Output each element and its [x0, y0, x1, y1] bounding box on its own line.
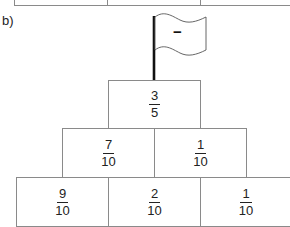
- pyramid-cell-bottom-left: 9 10: [16, 177, 109, 227]
- previous-table-divider: [200, 0, 201, 5]
- denominator: 10: [191, 154, 209, 169]
- fraction: 3 5: [149, 89, 160, 120]
- pyramid-cell-top: 3 5: [108, 80, 201, 129]
- denominator: 10: [99, 154, 117, 169]
- numerator: 2: [149, 187, 160, 203]
- previous-table-divider: [107, 0, 108, 5]
- pyramid-cell-middle-right: 1 10: [154, 128, 247, 178]
- pyramid-cell-bottom-right: 1 10: [200, 177, 290, 227]
- numerator: 3: [149, 89, 160, 105]
- fraction: 1 10: [191, 138, 209, 169]
- fraction: 7 10: [99, 138, 117, 169]
- previous-table-bottom-edge: [14, 0, 290, 6]
- denominator: 10: [145, 203, 163, 218]
- denominator: 5: [149, 105, 160, 120]
- pyramid-cell-bottom-middle: 2 10: [108, 177, 201, 227]
- fraction: 2 10: [145, 187, 163, 218]
- flag-operation-sign: −: [173, 23, 182, 40]
- numerator: 1: [195, 138, 206, 154]
- part-label: b): [2, 13, 14, 28]
- fraction: 9 10: [53, 187, 71, 218]
- denominator: 10: [53, 203, 71, 218]
- denominator: 10: [237, 203, 255, 218]
- fraction: 1 10: [237, 187, 255, 218]
- numerator: 7: [103, 138, 114, 154]
- pyramid-cell-middle-left: 7 10: [62, 128, 155, 178]
- numerator: 1: [240, 187, 251, 203]
- numerator: 9: [57, 187, 68, 203]
